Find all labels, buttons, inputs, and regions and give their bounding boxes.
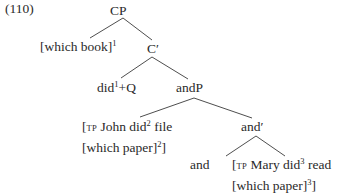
c-head-text: did (97, 80, 114, 95)
edge-cp-cbar (123, 18, 152, 40)
conjunct2-verb: read (305, 157, 332, 172)
conjunct2-text: Mary did (247, 157, 300, 172)
edge-andbar-andhead (226, 136, 256, 156)
example-number: (110) (5, 1, 34, 16)
edge-cbar-chead (121, 57, 152, 78)
conjunct1-object: [which paper] (82, 140, 157, 155)
conjunct1-line2: [which paper]2] (82, 140, 172, 155)
node-and-head: and (190, 157, 210, 172)
node-conjunct2: [TP Mary did3 read [which paper]3] (232, 157, 331, 193)
edge-cbar-andp (152, 57, 188, 79)
tp-label: TP (237, 161, 248, 171)
spec-cp-index: 1 (112, 38, 116, 48)
conjunct2-line1: [TP Mary did3 read (232, 157, 331, 174)
bracket-close: ] (312, 178, 317, 193)
edge-andp-andbar (194, 98, 252, 118)
node-andp: andP (176, 80, 203, 95)
edge-cp-spec (90, 18, 123, 38)
edge-andbar-conj2 (256, 136, 285, 156)
tp-label: TP (87, 123, 98, 133)
node-c-bar: C′ (147, 41, 159, 56)
bracket-close: ] (162, 140, 167, 155)
conjunct2-line2: [which paper]3] (232, 178, 331, 193)
edge-andp-conj1 (140, 98, 194, 117)
spec-cp-text: [which book] (40, 39, 112, 54)
conjunct1-text: John did (97, 119, 147, 134)
node-spec-cp: [which book]1 (40, 39, 117, 54)
conjunct2-object: [which paper] (232, 178, 307, 193)
conjunct1-line1: [TP John did2 file (82, 119, 172, 136)
node-cp: CP (110, 3, 127, 18)
node-and-bar: and′ (241, 119, 263, 134)
c-head-q: +Q (119, 80, 136, 95)
conjunct1-verb: file (151, 119, 172, 134)
node-conjunct1: [TP John did2 file [which paper]2] (82, 119, 172, 155)
node-c-head: did1+Q (97, 80, 136, 95)
